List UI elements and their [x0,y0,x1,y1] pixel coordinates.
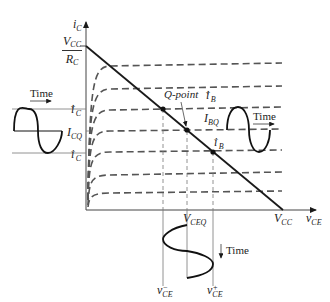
x-axis-label: vCE [306,212,322,224]
ic-plus-label: i+C [71,103,81,115]
ic-waveform [14,108,62,153]
time-label-bottom: Time [226,245,249,256]
qpoint-label: Q-point [164,89,198,100]
vceq-label: VCEQ [183,212,206,224]
vce-waveform [163,225,213,278]
ib-minus-point [210,149,215,154]
ib-plus-point [160,106,165,111]
load-line-diagram [0,0,330,302]
ic-minus-label: i−C [71,148,81,160]
vce-minus-label: vCE− [157,284,168,296]
y-axis-label: iC [73,18,82,30]
ib-minus-label: i−B [214,136,224,148]
vce-plus-label: vCE+ [207,284,218,296]
time-label-left: Time [30,88,53,99]
ib-plus-label: i+B [206,89,216,101]
load-line [86,46,283,210]
time-label-right: Time [253,111,276,122]
vcc-over-rc-label: VCC RC [62,34,82,67]
qpoint-pointer [181,102,186,126]
q-point [184,127,189,132]
guide-lines [12,109,213,286]
icq-label: ICQ [67,126,82,138]
vcc-label: VCC [274,212,292,224]
ibq-label: IBQ [204,112,219,124]
